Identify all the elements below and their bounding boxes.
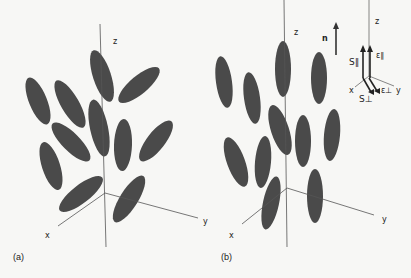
x-axis-label-a: x xyxy=(45,231,50,240)
eps-perp-label: ε⊥ xyxy=(381,86,392,95)
eps-parallel-label: ε∥ xyxy=(376,51,384,60)
molecule-ellipse xyxy=(275,41,291,97)
molecule-ellipse xyxy=(134,116,179,166)
molecule-ellipse xyxy=(20,74,55,127)
panel-label-a: (a) xyxy=(13,252,24,262)
s-parallel-arrowhead-icon xyxy=(360,45,366,52)
ellipses-group-b xyxy=(212,41,342,231)
molecule-ellipse xyxy=(212,55,235,109)
s-parallel-label: S∥ xyxy=(349,57,359,67)
ellipses-group-a xyxy=(20,48,178,227)
eps-parallel-arrowhead-icon xyxy=(367,45,373,52)
z-axis-label-a: z xyxy=(113,37,117,46)
panel-a: z x y (a) xyxy=(13,24,208,262)
molecule-ellipse xyxy=(113,61,164,108)
director-arrowhead-icon xyxy=(333,22,339,29)
molecule-ellipse xyxy=(322,108,342,161)
panel-label-b: (b) xyxy=(221,252,232,262)
molecule-ellipse xyxy=(311,52,327,104)
molecule-ellipse xyxy=(240,71,263,125)
molecule-ellipse xyxy=(84,98,114,158)
inset-frame: z x y S∥ ε∥ S⊥ ε⊥ xyxy=(349,0,401,104)
figure-canvas: z x y (a) z x y (b) n z x y xyxy=(0,0,411,278)
inset-x-label: x xyxy=(349,86,354,95)
panel-b: z x y (b) n z x y xyxy=(212,0,401,262)
z-axis-label-b: z xyxy=(294,28,298,37)
director-label: n xyxy=(322,34,328,43)
molecule-ellipse xyxy=(253,135,273,188)
y-axis-label-a: y xyxy=(203,217,208,226)
molecule-ellipse xyxy=(307,169,323,223)
molecule-ellipse xyxy=(219,134,254,189)
y-axis-b xyxy=(287,188,374,215)
molecule-ellipse xyxy=(113,119,133,172)
inset-z-label: z xyxy=(375,17,379,26)
molecule-ellipse xyxy=(35,139,68,192)
director-arrow: n xyxy=(322,22,339,55)
molecule-ellipse xyxy=(107,171,151,226)
inset-y-label: y xyxy=(396,86,401,95)
s-perp-label: S⊥ xyxy=(359,94,373,104)
x-axis-label-b: x xyxy=(229,231,234,240)
molecule-ellipse xyxy=(295,115,311,167)
y-axis-label-b: y xyxy=(382,215,387,224)
